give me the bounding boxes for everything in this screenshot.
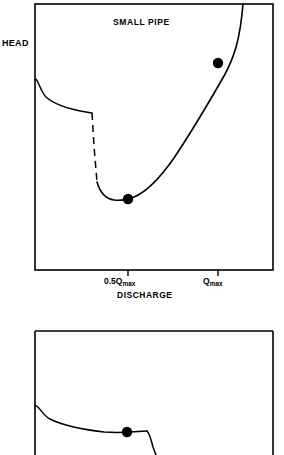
curve-dropoff-large (147, 431, 156, 455)
curve-unstable-transition-small (92, 113, 97, 182)
xtick-label-qmax: Qmax (203, 276, 223, 286)
xtick-label-half-qmax-sub: max (122, 280, 135, 287)
operating-point-max-flow-small (213, 58, 223, 68)
curve-lower-branch-small (97, 4, 243, 200)
x-axis-title-small: DISCHARGE (117, 290, 173, 300)
y-axis-label-small: HEAD (2, 38, 29, 48)
operating-point-large (122, 427, 132, 437)
chart-panel-small-pipe: HEAD SMALL PIPE 0.5Qmax Qmax DISCHARGE (0, 0, 284, 310)
operating-point-low-flow-small (123, 194, 133, 204)
chart-panel-large-pipe: HEAD LARGE PIPE (0, 320, 284, 455)
large-pipe-plot-svg (0, 320, 284, 455)
small-pipe-plot-svg (0, 0, 284, 310)
xtick-label-half-qmax-main: 0.5Q (104, 276, 122, 286)
xtick-label-qmax-main: Q (203, 276, 210, 286)
panel-title-small-pipe: SMALL PIPE (113, 17, 170, 27)
xtick-label-half-qmax: 0.5Qmax (104, 276, 135, 286)
xtick-label-qmax-sub: max (210, 280, 223, 287)
curve-upper-branch-small (35, 79, 92, 113)
pump-system-curve-figure: HEAD SMALL PIPE 0.5Qmax Qmax DISCHARGE H… (0, 0, 284, 455)
